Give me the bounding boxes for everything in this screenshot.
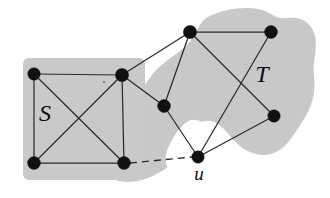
scan-speck <box>103 81 105 83</box>
node-t4 <box>268 110 280 122</box>
label-set-s: S <box>39 100 51 126</box>
graph-canvas: S T u <box>0 0 330 198</box>
node-t3 <box>158 100 171 113</box>
graph-figure: S T u <box>0 0 330 198</box>
node-s2 <box>115 68 128 81</box>
node-s1 <box>28 68 40 80</box>
label-set-t: T <box>255 61 270 87</box>
node-s4 <box>118 157 131 170</box>
label-vertex-u: u <box>194 163 204 184</box>
node-t1 <box>183 25 196 38</box>
node-u <box>192 151 204 163</box>
node-t2 <box>265 26 278 39</box>
node-s3 <box>28 157 41 170</box>
